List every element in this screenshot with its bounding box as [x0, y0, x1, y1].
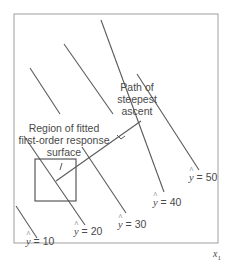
- region-annotation-line-3: surface: [18, 146, 110, 158]
- path-annotation-line-1: Path of: [112, 81, 162, 93]
- contour-label-10: y = 10: [26, 235, 54, 248]
- fitted-region-box: [35, 159, 76, 201]
- region-pointer-arrow: [60, 163, 62, 170]
- contour-line-20a: [30, 68, 60, 114]
- region-annotation-line-1: Region of fitted: [18, 122, 110, 134]
- contour-label-50: y = 50: [189, 171, 217, 184]
- contour-label-40: y = 40: [153, 196, 181, 209]
- contour-label-20: y = 20: [74, 225, 102, 238]
- region-annotation: Region of fitted first-order response su…: [18, 122, 110, 158]
- x1-axis-label: x1: [213, 248, 221, 262]
- region-annotation-line-2: first-order response: [18, 134, 110, 146]
- contour-line-30a: [64, 44, 113, 114]
- path-annotation-line-2: steepest: [112, 93, 162, 105]
- path-annotation: Path of steepest ascent: [112, 81, 162, 117]
- contour-label-30: y = 30: [118, 218, 146, 231]
- path-annotation-line-3: ascent: [112, 105, 162, 117]
